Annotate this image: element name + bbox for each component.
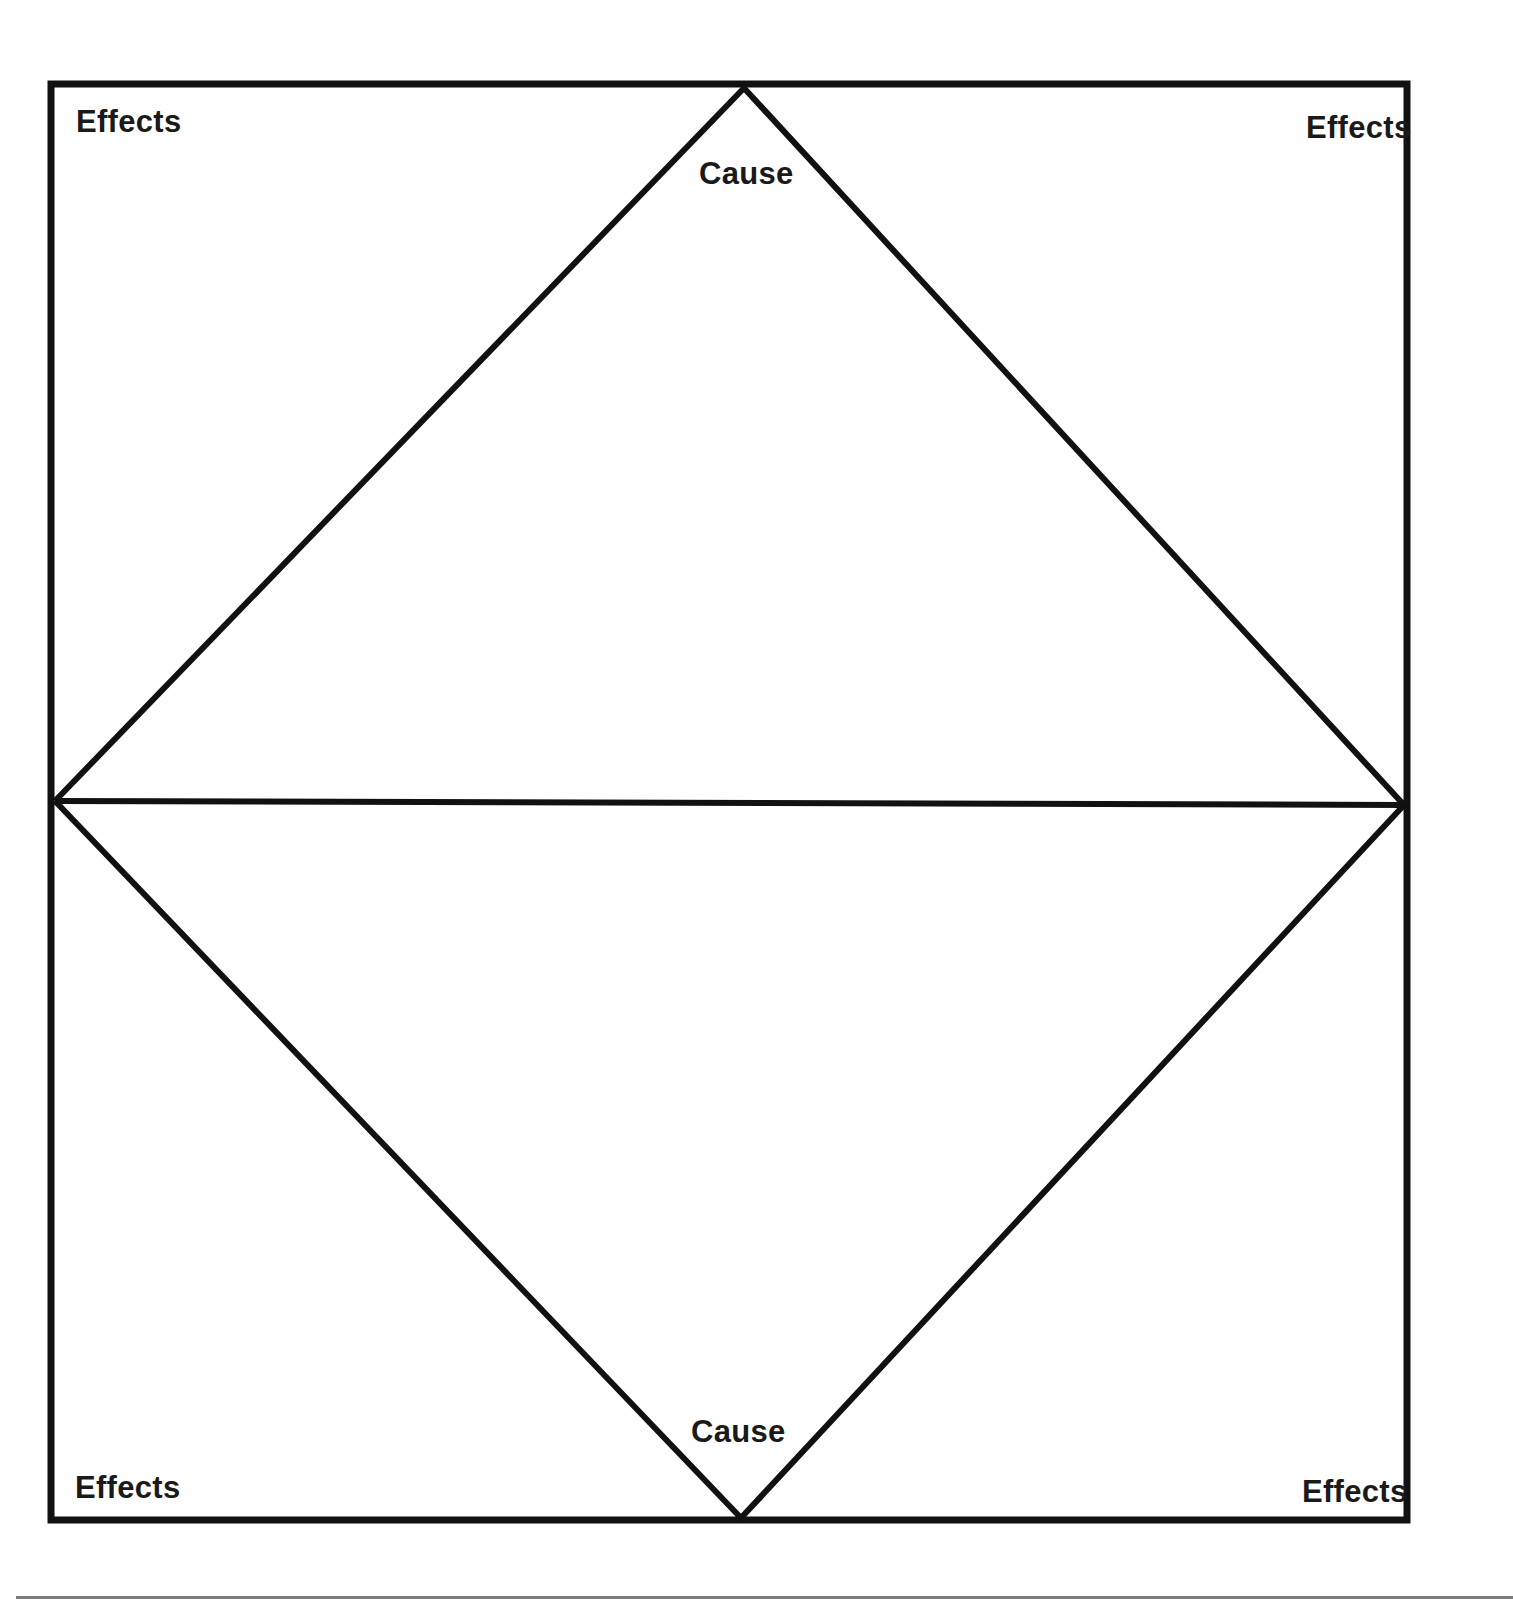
effects-label-top-right: Effects <box>1306 112 1411 143</box>
organizer-frame <box>0 0 1513 1601</box>
cause-label-bottom: Cause <box>691 1416 786 1447</box>
middle-divider <box>55 801 1404 805</box>
effects-label-top-left: Effects <box>76 106 181 137</box>
cause-label-top: Cause <box>699 158 794 189</box>
effects-label-bottom-right: Effects <box>1302 1476 1407 1507</box>
bottom-cause-triangle <box>55 801 1404 1518</box>
top-cause-triangle <box>55 88 1404 805</box>
page-bottom-rule <box>16 1596 1513 1599</box>
effects-label-bottom-left: Effects <box>75 1472 180 1503</box>
